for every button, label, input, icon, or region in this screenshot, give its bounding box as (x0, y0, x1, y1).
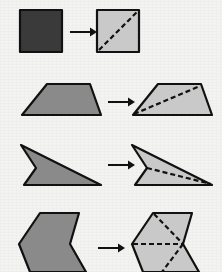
row-3-dart (21, 145, 212, 185)
row-1-square (20, 10, 139, 52)
arrow-icon-row-1 (70, 28, 97, 37)
source-dart-filled (21, 145, 101, 185)
source-chevron-filled (19, 213, 86, 272)
arrow-icon-row-4 (98, 244, 125, 253)
row-2-trapezoid (22, 84, 212, 115)
row-4-chevron (19, 213, 199, 272)
figure-canvas (0, 0, 222, 272)
result-dart-outline (132, 145, 212, 185)
arrow-icon-row-3 (108, 161, 135, 170)
result-chevron-outline (132, 213, 199, 272)
source-trapezoid-filled (22, 84, 101, 115)
source-square-filled (20, 10, 62, 52)
triangulation-diagram (0, 0, 222, 272)
arrow-icon-row-2 (108, 98, 135, 107)
